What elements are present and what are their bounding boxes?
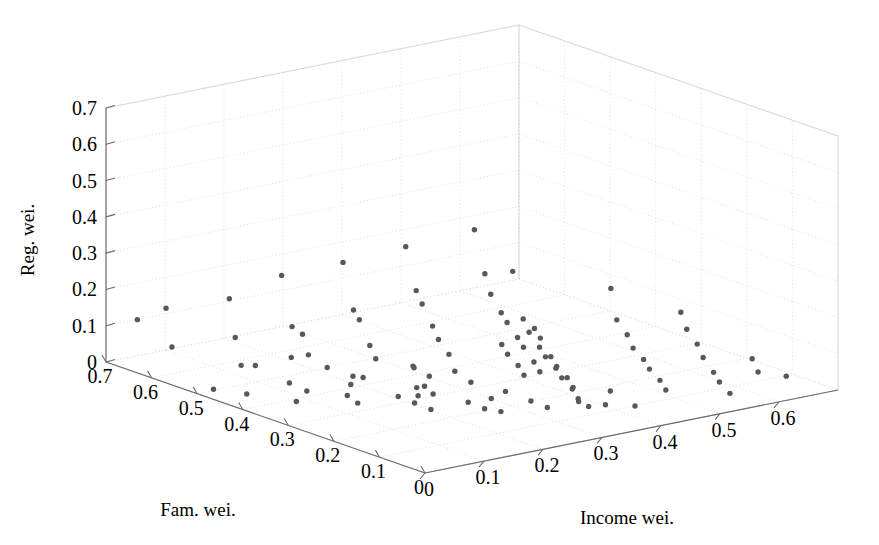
- data-point: [422, 384, 427, 389]
- gridline-wall-right-horizontal: [106, 279, 519, 362]
- data-point: [415, 393, 420, 398]
- ticklabel-income: 0.5: [712, 419, 737, 441]
- ticklabel-fam: 0.1: [361, 460, 386, 482]
- grid-floor: [106, 279, 838, 473]
- data-point: [289, 355, 294, 360]
- data-point: [367, 343, 372, 348]
- data-point: [663, 387, 668, 392]
- data-point: [755, 369, 760, 374]
- ticklabel-fam: 0.7: [88, 365, 113, 387]
- ticklabel-income: 0.1: [476, 466, 501, 488]
- data-point: [625, 332, 630, 337]
- data-point: [684, 326, 689, 331]
- data-point: [403, 244, 408, 249]
- data-point: [700, 355, 705, 360]
- data-point: [515, 363, 520, 368]
- gridline-floor-income-constant: [519, 279, 838, 390]
- data-point: [135, 317, 140, 322]
- data-point: [503, 389, 508, 394]
- data-point: [324, 365, 329, 370]
- data-point: [678, 310, 683, 315]
- data-point: [647, 366, 652, 371]
- ticklabel-income: 0.2: [535, 454, 560, 476]
- data-point: [412, 400, 417, 405]
- gridline-floor-income-constant: [401, 303, 720, 414]
- data-point: [466, 400, 471, 405]
- data-point: [695, 341, 700, 346]
- data-point: [169, 344, 174, 349]
- data-point: [608, 286, 613, 291]
- data-point: [784, 373, 789, 378]
- data-point: [548, 354, 553, 359]
- gridline-wall-right-horizontal: [106, 98, 519, 181]
- data-point: [505, 351, 510, 356]
- data-point: [489, 396, 494, 401]
- data-point: [537, 369, 542, 374]
- data-point: [428, 407, 433, 412]
- gridline-wall-right-horizontal: [106, 206, 519, 289]
- ticklabel-fam: 0.4: [224, 413, 249, 435]
- data-point: [472, 227, 477, 232]
- axis-title-income: Income wei.: [580, 507, 674, 528]
- data-point: [360, 375, 365, 380]
- axis-title-reg: Reg. wei.: [17, 204, 38, 276]
- data-point: [430, 323, 435, 328]
- data-point: [244, 391, 249, 396]
- data-point: [608, 388, 613, 393]
- data-point: [543, 354, 548, 359]
- gridline-floor-fam-constant: [243, 327, 656, 410]
- data-point: [545, 405, 550, 410]
- data-point: [499, 310, 504, 315]
- gridline-wall-left-horizontal: [519, 134, 838, 245]
- data-point: [227, 296, 232, 301]
- data-point: [559, 375, 564, 380]
- data-point: [300, 332, 305, 337]
- box-edge-top-left: [519, 25, 838, 136]
- data-point: [727, 391, 732, 396]
- ticklabel-reg: 0.6: [72, 133, 97, 155]
- axis-line-income: [425, 390, 838, 473]
- gridline-floor-income-constant: [460, 291, 779, 402]
- gridline-floor-income-constant: [283, 326, 602, 437]
- gridline-floor-fam-constant: [106, 279, 519, 362]
- data-point: [717, 379, 722, 384]
- data-point: [414, 385, 419, 390]
- gridline-wall-left-horizontal: [519, 206, 838, 317]
- data-point: [357, 317, 362, 322]
- data-point: [482, 406, 487, 411]
- data-point: [488, 292, 493, 297]
- plot-box-edges: [106, 25, 838, 473]
- data-point: [340, 260, 345, 265]
- data-point: [553, 365, 558, 370]
- data-point: [238, 363, 243, 368]
- data-point: [355, 400, 360, 405]
- gridline-wall-right-horizontal: [106, 170, 519, 253]
- ticklabel-reg: 0.5: [72, 170, 97, 192]
- data-point: [411, 365, 416, 370]
- gridline-wall-right-horizontal: [106, 243, 519, 326]
- data-point: [538, 335, 543, 340]
- data-point: [373, 356, 378, 361]
- gridline-floor-fam-constant: [379, 374, 792, 457]
- data-point: [436, 337, 441, 342]
- axis-ticks-layer: 00.10.20.30.40.50.60.70.70.60.50.40.30.2…: [72, 97, 796, 500]
- data-point: [564, 375, 569, 380]
- ticklabel-reg: 0.4: [72, 206, 97, 228]
- data-point: [345, 393, 350, 398]
- gridline-wall-left-horizontal: [519, 98, 838, 209]
- ticklabel-income: 0.6: [771, 407, 796, 429]
- data-point: [531, 359, 536, 364]
- data-point: [350, 374, 355, 379]
- gridline-floor-income-constant: [342, 315, 661, 426]
- data-point: [576, 399, 581, 404]
- data-point: [498, 409, 503, 414]
- ticklabel-income: 0.4: [653, 431, 678, 453]
- data-point: [294, 399, 299, 404]
- ticklabel-fam: 0.6: [133, 381, 158, 403]
- ticklabel-reg: 0.3: [72, 242, 97, 264]
- data-point: [414, 288, 419, 293]
- tick-fam: [102, 355, 106, 362]
- data-point: [289, 324, 294, 329]
- data-point: [570, 386, 575, 391]
- data-point: [348, 382, 353, 387]
